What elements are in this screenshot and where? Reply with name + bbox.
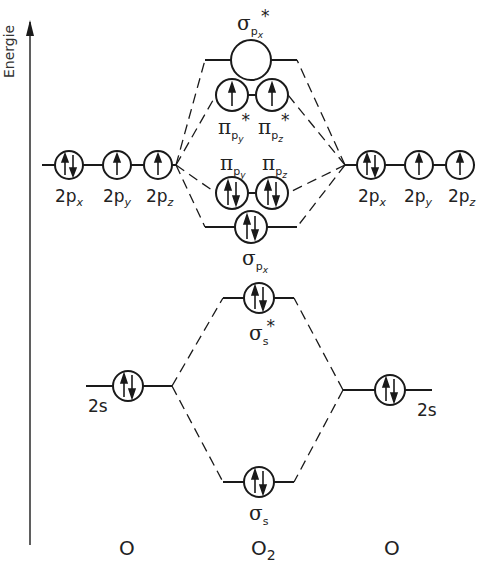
- sigma-px-label: σpx: [242, 248, 268, 275]
- right-2py-label: 2py: [404, 188, 432, 208]
- sigma-s-star-label: σs*: [249, 318, 275, 347]
- right-2px-label: 2px: [358, 188, 386, 208]
- arrow-up-icon: [26, 20, 34, 36]
- pi-level: [216, 177, 288, 209]
- mo-diagram: Energie 2px 2py 2pz 2px 2py 2pz 2s 2s σp…: [0, 0, 492, 567]
- pi-py-star-label: πpy*: [218, 112, 250, 144]
- sigma-s-star-level: [223, 283, 294, 313]
- left-2p-level: [42, 151, 176, 179]
- sigma-px-star-label: σpx*: [237, 8, 269, 40]
- right-2p-level: [345, 151, 475, 179]
- energy-axis: [26, 20, 34, 545]
- right-2s-label: 2s: [417, 402, 437, 419]
- mo-diagram-graphics: [0, 0, 492, 567]
- pi-star-level: [216, 79, 288, 111]
- energy-axis-label: Energie: [2, 25, 16, 78]
- pi-py-label: πpy: [220, 153, 245, 180]
- left-2s-label: 2s: [88, 398, 108, 415]
- left-atom-label: O: [119, 538, 135, 558]
- sigma-px-level: [205, 211, 297, 243]
- sigma-s-label: σs: [249, 503, 268, 527]
- sigma-px-star-level: [205, 40, 297, 80]
- left-2px-label: 2px: [55, 188, 83, 208]
- sigma-s-level: [223, 467, 294, 497]
- right-2pz-label: 2pz: [448, 188, 475, 208]
- left-2py-label: 2py: [103, 188, 131, 208]
- right-atom-label: O: [384, 538, 400, 558]
- left-2pz-label: 2pz: [146, 188, 173, 208]
- molecule-label: O2: [251, 538, 276, 562]
- pi-pz-label: πpz: [262, 153, 287, 180]
- pi-pz-star-label: πpz*: [258, 112, 289, 144]
